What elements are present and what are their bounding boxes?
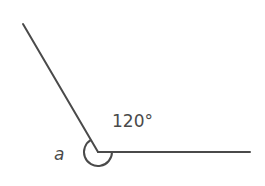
angle-figure: 120° a bbox=[0, 0, 265, 186]
angle-diagram: 120° a bbox=[0, 0, 265, 186]
left-ray bbox=[23, 24, 98, 152]
angle-label: 120° bbox=[112, 111, 153, 131]
reflex-angle-label: a bbox=[54, 144, 64, 164]
